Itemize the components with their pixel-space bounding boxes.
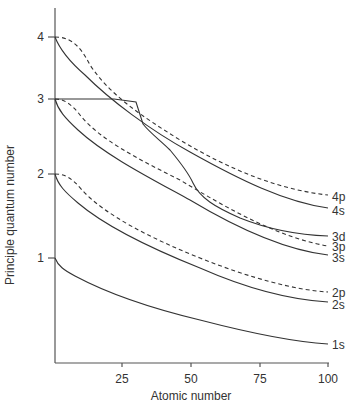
curve-3d — [55, 99, 328, 236]
x-axis-title: Atomic number — [151, 389, 232, 403]
y-tick-label-4: 4 — [37, 30, 44, 44]
x-tick-label-25: 25 — [115, 372, 129, 386]
curve-4s — [55, 37, 328, 208]
chart: 4 3 2 1 25 50 75 100 Atomic number Princ… — [0, 0, 364, 412]
label-2s: 2s — [332, 298, 345, 312]
x-tick-label-50: 50 — [184, 372, 198, 386]
x-tick-label-75: 75 — [253, 372, 267, 386]
label-1s: 1s — [332, 338, 345, 352]
y-tick-label-1: 1 — [37, 251, 44, 265]
curve-1s — [55, 258, 328, 344]
label-3s: 3s — [332, 251, 345, 265]
y-axis-title: Principle quantum number — [3, 145, 17, 285]
curve-2p — [55, 174, 328, 292]
curve-3p — [55, 99, 328, 246]
label-4p: 4p — [332, 190, 346, 204]
y-tick-label-2: 2 — [37, 167, 44, 181]
curve-4p — [55, 37, 328, 195]
x-tick-label-100: 100 — [318, 372, 338, 386]
label-4s: 4s — [332, 204, 345, 218]
y-tick-label-3: 3 — [37, 92, 44, 106]
curve-2s — [55, 174, 328, 302]
